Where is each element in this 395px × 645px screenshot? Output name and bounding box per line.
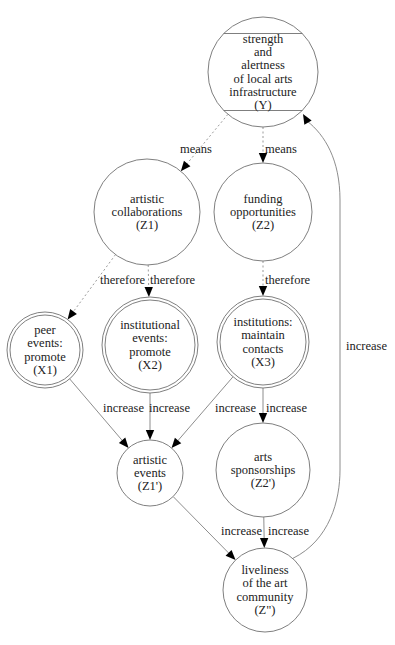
node-z1p: artisticevents(Z1') [117,440,183,506]
node-label-line: contacts [243,342,284,356]
edge-label: increase [268,524,309,538]
node-z2: fundingopportunities(Z2) [214,163,312,261]
node-label-line: sponsorships [231,463,296,477]
node-label-line: collaborations [112,205,183,219]
node-label-line: (X1) [33,363,57,377]
node-y: strengthandalertnessof local artsinfrast… [208,17,318,127]
node-label-line: maintain [241,328,285,342]
node-label-line: (Z1') [138,479,162,493]
node-label-line: institutional [120,318,180,332]
node-label-line: community [237,590,295,604]
edge-label: increase [346,339,387,353]
edge-label: increase [215,401,256,415]
node-label-line: institutions: [233,315,292,329]
arrowhead-icon [144,287,152,297]
node-z1: artisticcollaborations(Z1) [94,159,200,265]
edge-label: therefore [265,273,311,287]
node-label-line: and [254,45,273,59]
arrowhead-icon [303,114,312,125]
edge-label: means [180,142,212,156]
edge-line [187,114,228,164]
edge-z1-to-x1 [68,255,116,320]
edge-label: increase [103,401,144,415]
node-label-line: peer [34,323,56,337]
node-label-line: strength [243,32,284,46]
node-label-line: (Z1) [136,218,158,232]
edge-label: increase [266,401,307,415]
node-label-line: of local arts [233,72,292,86]
edge-line [148,265,149,288]
node-z2p: artssponsorships(Z2') [216,423,310,517]
node-x2: institutionalevents:promote(X2) [102,297,198,393]
arrowhead-icon [172,438,182,448]
edge-label: means [265,142,297,156]
node-label-line: alertness [241,58,285,72]
arrowhead-icon [119,438,129,448]
node-label-line: (Z2') [251,476,275,490]
arrowhead-icon [68,309,77,320]
node-label-line: artistic [133,453,167,467]
causal-diagram: strengthandalertnessof local artsinfrast… [0,0,395,645]
node-label-line: infrastructure [229,85,297,99]
arrowhead-icon [181,161,191,171]
node-label-line: (Z2) [252,218,274,232]
node-label-line: funding [244,192,284,206]
edge-label: therefore [100,273,146,287]
node-label-line: opportunities [230,205,296,219]
edge-label: increase [221,524,262,538]
node-x1: peerevents:promote(X1) [7,312,83,388]
node-label-line: events: [27,336,62,350]
node-zpp: livelinessof the artcommunity(Z") [223,548,307,632]
node-x3: institutions:maintaincontacts(X3) [217,296,309,388]
edge-label: therefore [150,273,196,287]
node-label-line: promote [24,350,66,364]
arrowhead-icon [146,430,154,440]
nodes-layer: strengthandalertnessof local artsinfrast… [7,17,318,632]
node-label-line: artistic [130,192,164,206]
node-label-line: (Y) [254,98,271,112]
node-label-line: (X3) [251,355,275,369]
edge-label: increase [149,401,190,415]
node-label-line: events: [132,331,167,345]
node-label-line: events [134,466,166,480]
node-label-line: (Z") [254,603,275,617]
arrowhead-icon [260,538,268,548]
node-label-line: of the art [242,576,288,590]
arrowhead-icon [259,286,267,296]
node-label-line: liveliness [241,563,288,577]
node-label-line: (X2) [138,358,162,372]
node-label-line: arts [254,450,272,464]
node-label-line: promote [129,345,171,359]
